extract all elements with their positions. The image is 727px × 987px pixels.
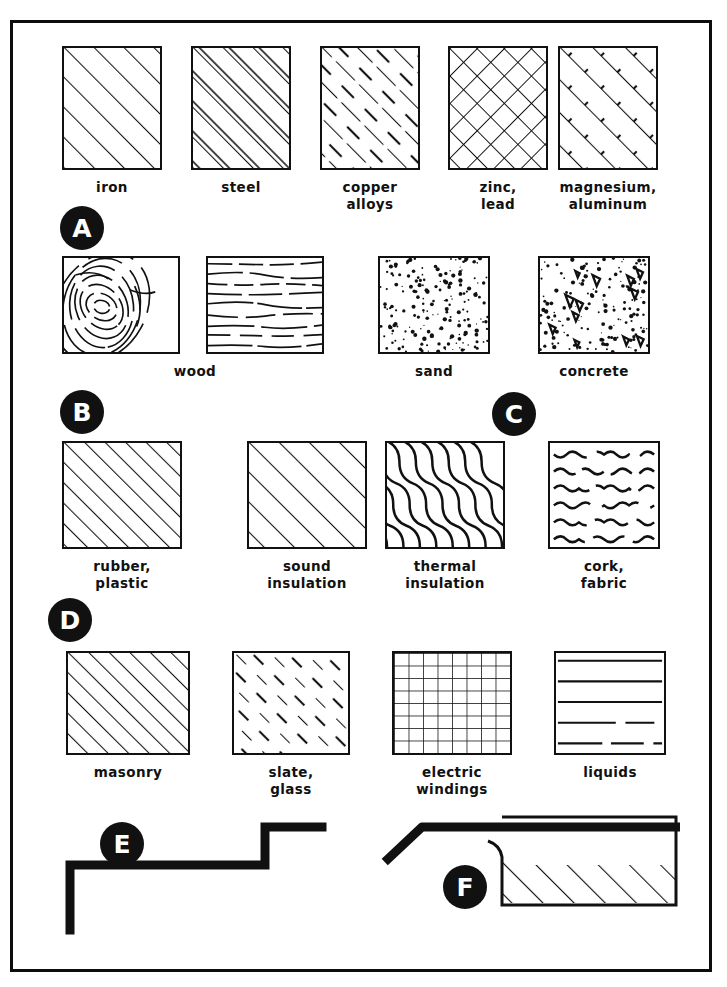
caption-magnesium-aluminum: magnesium, aluminum [528, 179, 688, 213]
broken-out-section [380, 805, 680, 925]
group-badge-b: B [60, 390, 104, 434]
material-panel-rubber-plastic [62, 441, 182, 549]
material-panel-wood-long-grain [206, 256, 324, 354]
caption-cork-fabric: cork, fabric [518, 558, 690, 592]
material-panel-cork-fabric [548, 441, 660, 549]
material-panel-liquids [554, 651, 666, 755]
material-panel-slate-glass [232, 651, 350, 755]
material-panel-iron [62, 46, 162, 170]
caption-rubber-plastic: rubber, plastic [32, 558, 212, 592]
material-panel-wood-end-grain [62, 256, 180, 354]
material-panel-zinc-lead [448, 46, 548, 170]
caption-wood-long-grain: wood [100, 363, 290, 380]
material-panel-steel [191, 46, 291, 170]
group-badge-a: A [60, 206, 104, 250]
caption-electric-windings: electric windings [362, 764, 542, 798]
caption-liquids: liquids [524, 764, 696, 781]
caption-concrete: concrete [508, 363, 680, 380]
material-panel-sand [378, 256, 490, 354]
material-panel-masonry [66, 651, 190, 755]
material-panel-magnesium-aluminum [558, 46, 658, 170]
group-badge-c: C [492, 392, 536, 436]
stepped-profile-line [60, 805, 330, 935]
material-panel-sound-insulation [247, 441, 367, 549]
caption-sand: sand [348, 363, 520, 380]
material-panel-concrete [538, 256, 650, 354]
caption-masonry: masonry [36, 764, 220, 781]
material-panel-thermal-insulation [385, 441, 505, 549]
material-panel-electric-windings [392, 651, 512, 755]
caption-thermal-insulation: thermal insulation [355, 558, 535, 592]
group-badge-d: D [48, 598, 92, 642]
material-panel-copper-alloys [320, 46, 420, 170]
caption-slate-glass: slate, glass [202, 764, 380, 798]
